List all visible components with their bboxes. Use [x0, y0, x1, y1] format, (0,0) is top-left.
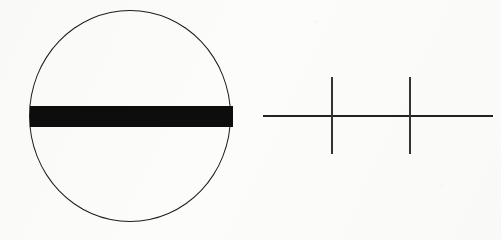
circle-with-band-figure — [0, 0, 250, 240]
figure-canvas — [0, 0, 501, 240]
vertical-tick-2-shape — [409, 77, 411, 154]
vertical-tick-1-shape — [331, 77, 333, 154]
line-with-ticks-figure — [250, 0, 501, 240]
horizontal-axis-line-shape — [263, 115, 493, 117]
horizontal-band-shape — [30, 106, 233, 127]
